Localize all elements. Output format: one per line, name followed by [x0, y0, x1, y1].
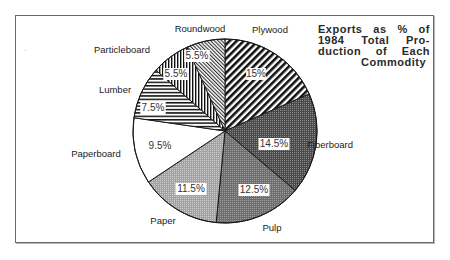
svg-text:9.5%: 9.5% — [149, 140, 172, 151]
svg-text:11.5%: 11.5% — [177, 183, 205, 194]
svg-text:5.5%: 5.5% — [186, 50, 209, 61]
chart-title: Exports as % of 1984 Total Pro- duction … — [318, 24, 430, 68]
svg-text:15%: 15% — [246, 68, 266, 79]
pie-slices — [133, 39, 317, 223]
category-label-pulp: Pulp — [262, 222, 281, 233]
value-label-lumber: 7.5% — [140, 102, 165, 114]
svg-text:7.5%: 7.5% — [142, 102, 165, 113]
value-label-paper: 11.5% — [176, 183, 207, 195]
category-label-lumber: Lumber — [99, 84, 131, 95]
value-label-pulp: 12.5% — [239, 184, 270, 196]
value-label-paperboard: 9.5% — [149, 140, 172, 151]
category-label-roundwood: Roundwood — [175, 23, 226, 34]
svg-text:12.5%: 12.5% — [240, 184, 268, 195]
category-label-paper: Paper — [150, 215, 175, 226]
category-label-plywood: Plywood — [252, 24, 288, 35]
chart-title-line-4: Commodity — [318, 57, 430, 68]
category-label-fiberboard: Fiberboard — [307, 139, 353, 150]
value-label-particleboard: 5.5% — [163, 68, 188, 80]
svg-text:14.5%: 14.5% — [260, 138, 288, 149]
value-label-roundwood: 5.5% — [184, 50, 209, 62]
value-label-plywood: 15% — [246, 68, 266, 80]
value-label-fiberboard: 14.5% — [259, 138, 290, 150]
svg-text:5.5%: 5.5% — [165, 68, 188, 79]
category-label-particleboard: Particleboard — [94, 44, 150, 55]
category-label-paperboard: Paperboard — [71, 148, 121, 159]
